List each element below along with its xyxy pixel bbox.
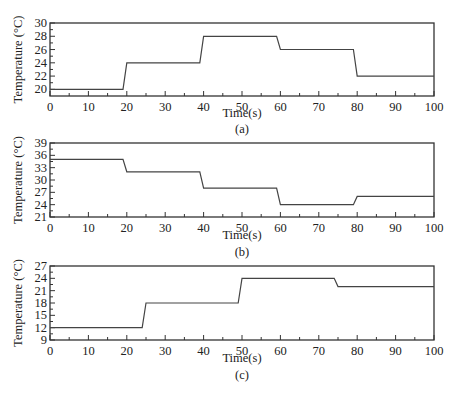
y-tick-label: 28 — [35, 29, 48, 43]
y-tick-label: 30 — [35, 173, 48, 187]
x-tick-label: 10 — [82, 221, 95, 235]
figure: 0102030405060708090100202224262830Temper… — [0, 0, 464, 397]
chart-c: 01020304050607080901009121518212427Tempe… — [11, 259, 443, 382]
subfigure-caption: (c) — [235, 368, 249, 382]
x-tick-label: 60 — [274, 344, 287, 358]
temperature-line — [50, 159, 434, 204]
y-tick-label: 18 — [35, 296, 48, 310]
plot-frame — [50, 23, 434, 96]
x-tick-label: 80 — [351, 100, 364, 114]
plot-frame — [50, 143, 434, 217]
y-tick-label: 30 — [35, 16, 48, 30]
y-axis-label: Temperature (°C) — [11, 16, 25, 104]
temperature-line — [50, 36, 434, 89]
x-tick-label: 30 — [159, 344, 172, 358]
y-tick-label: 33 — [35, 161, 48, 175]
x-axis-label: Time(s) — [222, 228, 261, 242]
x-tick-label: 40 — [197, 221, 210, 235]
x-tick-label: 10 — [82, 100, 95, 114]
plot-frame — [50, 266, 434, 340]
x-tick-label: 100 — [425, 221, 444, 235]
y-tick-label: 21 — [35, 210, 48, 224]
y-axis-label: Temperature (°C) — [11, 136, 25, 224]
y-tick-label: 27 — [35, 259, 48, 273]
y-tick-label: 39 — [35, 136, 48, 150]
x-tick-label: 80 — [351, 344, 364, 358]
y-tick-label: 12 — [35, 321, 48, 335]
subfigure-caption: (b) — [235, 245, 250, 259]
x-tick-label: 40 — [197, 100, 210, 114]
x-tick-label: 10 — [82, 344, 95, 358]
y-tick-label: 24 — [35, 271, 48, 285]
x-tick-label: 90 — [389, 100, 402, 114]
temperature-line — [50, 278, 434, 327]
x-tick-label: 20 — [121, 221, 134, 235]
y-tick-label: 22 — [35, 69, 48, 83]
y-tick-label: 20 — [35, 82, 48, 96]
chart-b: 010203040506070809010021242730333639Temp… — [11, 136, 443, 259]
x-tick-label: 30 — [159, 221, 172, 235]
x-axis-label: Time(s) — [222, 106, 261, 120]
x-tick-label: 20 — [121, 100, 134, 114]
x-tick-label: 80 — [351, 221, 364, 235]
y-tick-label: 9 — [41, 333, 47, 347]
x-tick-label: 30 — [159, 100, 172, 114]
y-tick-label: 24 — [35, 198, 48, 212]
x-tick-label: 90 — [389, 221, 402, 235]
x-tick-label: 100 — [425, 344, 444, 358]
x-tick-label: 90 — [389, 344, 402, 358]
y-tick-label: 24 — [35, 56, 48, 70]
x-axis-label: Time(s) — [222, 351, 261, 365]
y-tick-label: 15 — [35, 308, 48, 322]
x-tick-label: 0 — [47, 221, 53, 235]
x-tick-label: 60 — [274, 100, 287, 114]
y-tick-label: 26 — [35, 43, 48, 57]
y-tick-label: 27 — [35, 185, 48, 199]
y-axis-label: Temperature (°C) — [11, 259, 25, 347]
y-tick-label: 21 — [35, 284, 48, 298]
x-tick-label: 40 — [197, 344, 210, 358]
x-tick-label: 60 — [274, 221, 287, 235]
x-tick-label: 0 — [47, 344, 53, 358]
subfigure-caption: (a) — [235, 122, 249, 136]
x-tick-label: 0 — [47, 100, 53, 114]
chart-a: 0102030405060708090100202224262830Temper… — [11, 16, 443, 136]
x-tick-label: 100 — [425, 100, 444, 114]
x-tick-label: 70 — [313, 221, 326, 235]
y-tick-label: 36 — [35, 148, 48, 162]
x-tick-label: 20 — [121, 344, 134, 358]
x-tick-label: 70 — [313, 100, 326, 114]
x-tick-label: 70 — [313, 344, 326, 358]
